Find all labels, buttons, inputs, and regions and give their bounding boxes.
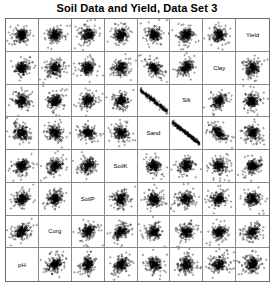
matrix-scatter-cell <box>72 248 105 281</box>
matrix-scatter-cell <box>138 183 171 216</box>
matrix-scatter-cell <box>170 117 203 150</box>
matrix-scatter-cell <box>203 19 236 52</box>
matrix-scatter-cell <box>6 117 39 150</box>
matrix-diagonal-cell: pH <box>6 248 39 281</box>
variable-label: SoilP <box>72 183 104 215</box>
matrix-scatter-cell <box>138 85 171 118</box>
matrix-scatter-cell <box>236 117 269 150</box>
variable-label: SoilK <box>105 150 137 182</box>
matrix-scatter-cell <box>203 117 236 150</box>
matrix-scatter-cell <box>138 216 171 249</box>
variable-label: Clay <box>203 52 235 84</box>
matrix-scatter-cell <box>236 85 269 118</box>
matrix-scatter-cell <box>138 248 171 281</box>
matrix-scatter-cell <box>203 248 236 281</box>
matrix-scatter-cell <box>105 52 138 85</box>
matrix-diagonal-cell: Corg <box>39 216 72 249</box>
matrix-scatter-cell <box>170 52 203 85</box>
matrix-scatter-cell <box>39 183 72 216</box>
matrix-scatter-cell <box>72 85 105 118</box>
matrix-scatter-cell <box>72 216 105 249</box>
matrix-scatter-cell <box>105 216 138 249</box>
variable-label: Yield <box>236 19 269 51</box>
matrix-scatter-cell <box>6 52 39 85</box>
matrix-diagonal-cell: SoilP <box>72 183 105 216</box>
matrix-scatter-cell <box>72 150 105 183</box>
matrix-diagonal-cell: Clay <box>203 52 236 85</box>
matrix-scatter-cell <box>170 150 203 183</box>
matrix-scatter-cell <box>72 52 105 85</box>
matrix-scatter-cell <box>138 150 171 183</box>
matrix-scatter-cell <box>170 183 203 216</box>
matrix-scatter-cell <box>170 248 203 281</box>
matrix-diagonal-cell: SoilK <box>105 150 138 183</box>
matrix-scatter-cell <box>203 216 236 249</box>
matrix-scatter-cell <box>203 183 236 216</box>
matrix-scatter-cell <box>105 19 138 52</box>
matrix-scatter-cell <box>105 117 138 150</box>
matrix-scatter-cell <box>6 85 39 118</box>
matrix-scatter-cell <box>39 85 72 118</box>
matrix-scatter-cell <box>105 248 138 281</box>
variable-label: pH <box>6 248 38 281</box>
matrix-scatter-cell <box>39 150 72 183</box>
matrix-scatter-cell <box>236 183 269 216</box>
matrix-scatter-cell <box>236 216 269 249</box>
matrix-scatter-cell <box>203 85 236 118</box>
variable-label: Sand <box>138 117 170 149</box>
matrix-scatter-cell <box>138 52 171 85</box>
matrix-diagonal-cell: Yield <box>236 19 269 52</box>
matrix-scatter-cell <box>39 52 72 85</box>
matrix-scatter-cell <box>236 248 269 281</box>
matrix-diagonal-cell: Sand <box>138 117 171 150</box>
matrix-scatter-cell <box>39 19 72 52</box>
scatter-matrix-grid: YieldClaySiltSandSoilKSoilPCorgpH <box>5 18 270 282</box>
matrix-scatter-cell <box>6 216 39 249</box>
matrix-scatter-cell <box>6 150 39 183</box>
variable-label: Silt <box>170 85 202 117</box>
matrix-scatter-cell <box>170 19 203 52</box>
variable-label: Corg <box>39 216 71 248</box>
matrix-scatter-cell <box>203 150 236 183</box>
matrix-scatter-cell <box>236 150 269 183</box>
matrix-diagonal-cell: Silt <box>170 85 203 118</box>
matrix-scatter-cell <box>72 19 105 52</box>
chart-title: Soil Data and Yield, Data Set 3 <box>0 1 274 15</box>
matrix-scatter-cell <box>236 52 269 85</box>
matrix-scatter-cell <box>39 248 72 281</box>
matrix-scatter-cell <box>105 85 138 118</box>
scatterplot-matrix-figure: Soil Data and Yield, Data Set 3 YieldCla… <box>0 0 274 288</box>
matrix-scatter-cell <box>170 216 203 249</box>
matrix-scatter-cell <box>6 183 39 216</box>
matrix-scatter-cell <box>72 117 105 150</box>
matrix-scatter-cell <box>138 19 171 52</box>
matrix-scatter-cell <box>105 183 138 216</box>
matrix-scatter-cell <box>39 117 72 150</box>
matrix-scatter-cell <box>6 19 39 52</box>
